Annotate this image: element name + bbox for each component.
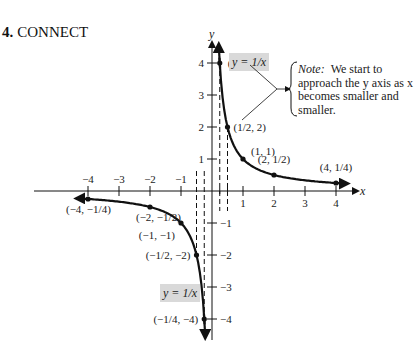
data-point — [202, 316, 207, 321]
data-point — [217, 60, 222, 65]
x-tick-label: 1 — [240, 197, 246, 209]
x-tick-label: 4 — [333, 197, 339, 209]
y-tick-label: −2 — [220, 249, 232, 261]
data-point — [178, 220, 183, 225]
data-point — [333, 180, 338, 185]
data-point-label: (4, 1/4) — [320, 161, 353, 174]
note-callout: Note:We start to approach the y axis as … — [298, 63, 415, 117]
y-tick-label: −1 — [220, 217, 232, 229]
data-point — [225, 124, 230, 129]
data-point — [271, 172, 276, 177]
data-point — [147, 204, 152, 209]
x-tick-label: 3 — [302, 197, 308, 209]
equation-label: y = 1/x — [231, 55, 267, 69]
equation-label: y = 1/x — [162, 286, 198, 300]
note-label: Note: — [298, 62, 325, 76]
data-point — [194, 252, 199, 257]
y-tick-label: 3 — [199, 89, 205, 101]
y-tick-label: 1 — [199, 153, 205, 165]
data-point — [85, 196, 90, 201]
note-brace — [287, 62, 297, 116]
x-tick-label: 2 — [271, 197, 277, 209]
x-axis-label: x — [359, 184, 366, 198]
y-tick-label: 4 — [199, 57, 205, 69]
y-axis-label: y — [208, 27, 215, 41]
reciprocal-function-graph: xy−4−3−2−112344321−1−2−3−4(1/4, 4)(1/2, … — [0, 0, 415, 351]
y-tick-label: −3 — [220, 281, 232, 293]
data-point — [240, 156, 245, 161]
data-point-label: (−4, −1/4) — [66, 203, 111, 216]
x-tick-label: −3 — [113, 173, 125, 185]
data-point-label: (1/2, 2) — [234, 121, 267, 134]
y-tick-label: −4 — [220, 313, 232, 325]
x-tick-label: −2 — [144, 173, 156, 185]
y-tick-label: 2 — [199, 121, 205, 133]
x-tick-label: −4 — [82, 173, 94, 185]
data-point-label: (−2, −1/2) — [136, 211, 181, 224]
data-point-label: (2, 1/2) — [258, 153, 291, 166]
data-point-label: (−1/2, −2) — [146, 249, 191, 262]
data-point-label: (−1, −1) — [139, 229, 176, 242]
data-point-label: (−1/4, −4) — [153, 313, 198, 326]
note-pointer-line — [242, 89, 277, 120]
x-tick-label: −1 — [175, 173, 187, 185]
